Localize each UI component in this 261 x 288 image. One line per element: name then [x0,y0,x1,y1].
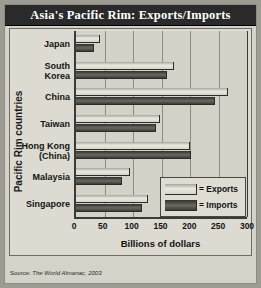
chart-card: Pacific Rim countries JapanSouthKoreaChi… [9,28,252,256]
bar-exports [76,62,174,70]
x-tick-label-300: 300 [240,221,254,231]
x-tick-label-100: 100 [125,221,139,231]
gridline-300 [247,31,248,217]
bar-imports [76,177,122,185]
chart-title-bar: Asia's Pacific Rim: Exports/Imports [5,5,256,26]
bar-imports [76,97,215,105]
bar-exports [76,168,130,176]
source-value: The World Almanac, 2003 [32,270,101,276]
category-label: SouthKorea [44,61,70,81]
source-label: Source: [10,270,31,276]
category-label: China [45,92,70,102]
bar-exports [76,88,228,96]
category-label: Taiwan [40,119,70,129]
category-label: Hong Kong(China) [22,141,71,161]
bar-row: Japan [76,34,247,54]
legend-swatch-imports [165,200,197,211]
chart-figure: Asia's Pacific Rim: Exports/Imports Paci… [0,0,261,288]
bar-imports [76,151,191,159]
legend-label-imports: = Imports [199,200,238,210]
x-tick-label-50: 50 [98,221,107,231]
bar-imports [76,71,167,79]
category-label: Japan [44,39,70,49]
bar-row: Taiwan [76,114,247,134]
bar-exports [76,195,148,203]
legend-label-exports: = Exports [199,184,238,194]
bar-exports [76,35,100,43]
category-label: Singapore [26,199,70,209]
legend-swatch-exports [165,184,197,195]
source-note: Source: The World Almanac, 2003 [10,270,102,276]
bar-imports [76,124,156,132]
x-axis-ticks: 050100150200250300 [74,221,247,233]
bar-imports [76,44,94,52]
chart-legend: = Exports = Imports [160,177,246,217]
legend-item-imports: = Imports [165,198,241,212]
chart-title: Asia's Pacific Rim: Exports/Imports [30,8,230,23]
bar-exports [76,115,160,123]
bar-row: Hong Kong(China) [76,141,247,161]
x-tick-label-150: 150 [153,221,167,231]
legend-item-exports: = Exports [165,182,241,196]
x-axis-label: Billions of dollars [74,238,247,249]
bar-exports [76,142,190,150]
x-tick-label-0: 0 [72,221,77,231]
x-axis-line [74,217,247,219]
x-tick-label-250: 250 [211,221,225,231]
bar-row: China [76,87,247,107]
bar-row: SouthKorea [76,61,247,81]
bar-imports [76,204,142,212]
x-tick-label-200: 200 [182,221,196,231]
category-label: Malaysia [32,172,70,182]
